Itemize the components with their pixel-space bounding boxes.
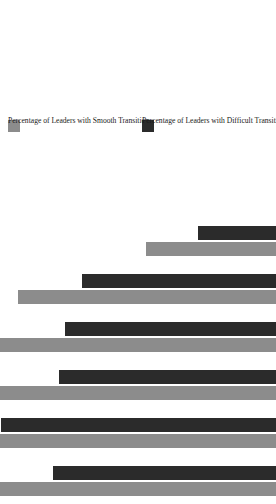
bar-smooth-4[interactable]: 52% — [18, 290, 276, 304]
chart-stage: 61% 46% 65% 55% 57% 45% 56% — [0, 0, 276, 504]
chart-legend: Percentage of Leaders with Smooth Transi… — [8, 12, 262, 132]
bar-smooth-2[interactable]: 57% — [0, 386, 276, 400]
bar-difficult-0[interactable]: 46% — [53, 466, 276, 480]
legend-item-difficult[interactable]: Percentage of Leaders with Difficult Tra… — [142, 12, 262, 132]
bar-smooth-3[interactable]: 56% — [0, 338, 276, 352]
bar-group: 30% 21% — [0, 226, 276, 256]
bar-group: 57% 45% — [0, 370, 276, 400]
bar-difficult-5[interactable]: 21% — [198, 226, 276, 240]
chart-plot-area: 61% 46% 65% 55% 57% 45% 56% — [0, 160, 276, 504]
legend-item-smooth[interactable]: Percentage of Leaders with Smooth Transi… — [8, 12, 128, 132]
bar-smooth-5[interactable]: 30% — [146, 242, 276, 256]
bar-group: 52% 41% — [0, 274, 276, 304]
bar-difficult-1[interactable]: 55% — [1, 418, 276, 432]
bar-smooth-0[interactable]: 61% — [0, 482, 276, 496]
bar-difficult-2[interactable]: 45% — [59, 370, 276, 384]
legend-label: Percentage of Leaders with Difficult Tra… — [142, 116, 276, 125]
bar-group: 65% 55% — [0, 418, 276, 448]
bar-smooth-1[interactable]: 65% — [0, 434, 276, 448]
bar-difficult-4[interactable]: 41% — [82, 274, 276, 288]
bar-difficult-3[interactable]: 44% — [65, 322, 276, 336]
bar-group: 61% 46% — [0, 466, 276, 496]
legend-label: Percentage of Leaders with Smooth Transi… — [8, 116, 149, 125]
bar-group: 56% 44% — [0, 322, 276, 352]
